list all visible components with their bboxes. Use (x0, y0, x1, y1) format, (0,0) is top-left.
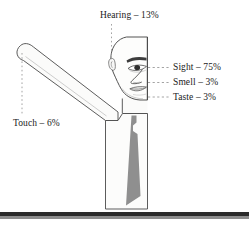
eye-pupil (134, 65, 140, 70)
label-taste: Taste – 3% (173, 92, 216, 103)
label-hearing: Hearing – 13% (100, 10, 159, 21)
label-touch: Touch – 6% (13, 118, 60, 129)
torso-shape (106, 114, 148, 210)
diagram-canvas: Hearing – 13% Sight – 75% Smell – 3% Tas… (0, 0, 249, 225)
senses-figure-illustration (0, 0, 249, 225)
ear-shape (109, 58, 116, 70)
arm-inner-crease (26, 57, 107, 117)
arm-shape (17, 44, 118, 121)
label-sight: Sight – 75% (173, 62, 221, 73)
bottom-divider-soft (0, 216, 249, 219)
label-smell: Smell – 3% (173, 77, 218, 88)
